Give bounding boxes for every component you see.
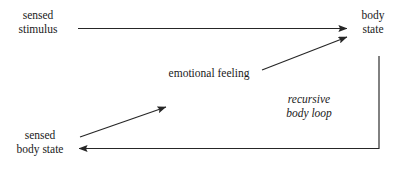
node-label-sensed-stimulus-line1: sensed bbox=[6, 8, 70, 22]
edge-label-emotional-feeling: emotional feeling bbox=[160, 66, 258, 80]
diagram-canvas: sensed stimulus body state sensed body s… bbox=[0, 0, 401, 173]
node-label-body-state-line2: state bbox=[348, 22, 398, 36]
edge-label-recursive-body-loop: recursive body loop bbox=[278, 92, 340, 120]
edge-label-emotional-feeling-text: emotional feeling bbox=[160, 66, 258, 80]
node-label-body-state: body state bbox=[348, 8, 398, 36]
edge-sensed-body-state-to-emotional-feeling bbox=[80, 107, 166, 137]
edge-label-recursive-body-loop-line2: body loop bbox=[278, 106, 340, 120]
node-label-body-state-line1: body bbox=[348, 8, 398, 22]
edge-emotional-feeling-to-body-state bbox=[262, 37, 347, 70]
node-label-sensed-stimulus: sensed stimulus bbox=[6, 8, 70, 36]
node-label-sensed-body-state-line2: body state bbox=[2, 142, 78, 156]
node-label-sensed-stimulus-line2: stimulus bbox=[6, 22, 70, 36]
node-label-sensed-body-state-line1: sensed bbox=[2, 128, 78, 142]
edge-label-recursive-body-loop-line1: recursive bbox=[278, 92, 340, 106]
node-label-sensed-body-state: sensed body state bbox=[2, 128, 78, 156]
